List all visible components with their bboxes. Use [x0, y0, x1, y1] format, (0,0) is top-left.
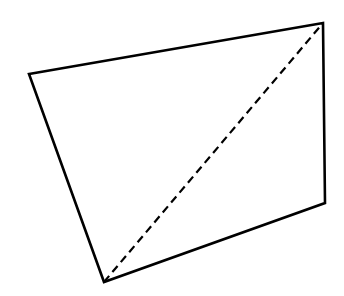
quadrilateral-diagram — [0, 0, 344, 296]
quadrilateral-outline — [29, 23, 325, 282]
